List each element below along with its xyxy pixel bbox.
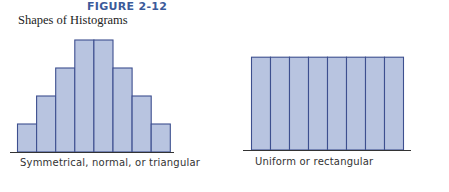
histogram-bar bbox=[366, 57, 385, 150]
histogram-bar bbox=[132, 96, 151, 152]
histogram-bar bbox=[309, 57, 328, 150]
histogram-bar bbox=[290, 57, 309, 150]
histogram-bar bbox=[37, 96, 56, 152]
histogram-bar bbox=[94, 40, 113, 152]
histogram-bar bbox=[328, 57, 347, 150]
histogram-bar bbox=[271, 57, 290, 150]
histogram-bar bbox=[252, 57, 271, 150]
caption-uniform: Uniform or rectangular bbox=[255, 156, 373, 167]
caption-symmetric: Symmetrical, normal, or triangular bbox=[20, 157, 200, 168]
uniform-histogram bbox=[243, 57, 411, 150]
histogram-bar bbox=[385, 57, 404, 150]
histogram-bar bbox=[113, 68, 132, 152]
histogram-bar bbox=[56, 68, 75, 152]
histogram-bar bbox=[151, 124, 170, 152]
symmetric-histogram bbox=[10, 40, 174, 153]
histogram-bar bbox=[18, 124, 37, 152]
histogram-bar bbox=[75, 40, 94, 152]
histogram-bar bbox=[347, 57, 366, 150]
